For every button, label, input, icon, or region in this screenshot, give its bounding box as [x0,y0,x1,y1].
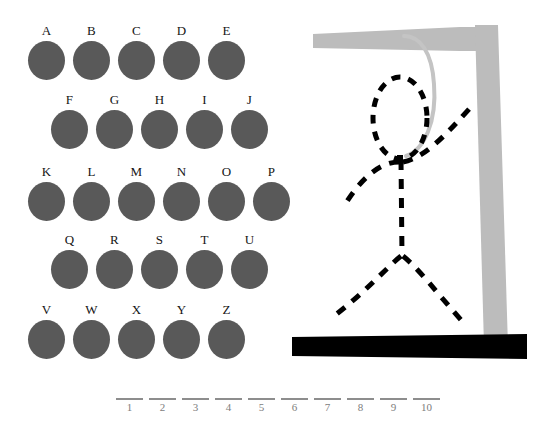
letter-key-disc[interactable] [73,320,110,359]
letter-key-h[interactable]: H [137,93,182,149]
letter-key-disc[interactable] [231,250,268,289]
letter-key-i[interactable]: I [182,93,227,149]
answer-slot-number: 3 [193,401,199,414]
letter-key-j[interactable]: J [227,93,272,149]
letter-key-disc[interactable] [28,320,65,359]
letter-key-r[interactable]: R [92,233,137,289]
letter-key-label: Y [177,303,187,318]
letter-key-disc[interactable] [186,110,223,149]
answer-slot-10: 10 [410,398,443,414]
letter-key-label: X [132,303,142,318]
letter-key-disc[interactable] [163,182,200,221]
letter-key-k[interactable]: K [24,165,69,221]
letter-key-m[interactable]: M [114,165,159,221]
letter-key-label: T [200,233,208,248]
letter-key-b[interactable]: B [69,24,114,80]
letter-key-disc[interactable] [118,182,155,221]
letter-key-w[interactable]: W [69,303,114,359]
answer-slot-number: 8 [358,401,364,414]
letter-key-disc[interactable] [51,110,88,149]
letter-key-label: U [245,233,255,248]
letter-key-u[interactable]: U [227,233,272,289]
gallows-scene [282,10,542,370]
letter-key-disc[interactable] [186,250,223,289]
answer-slot-line [347,398,374,400]
letter-key-q[interactable]: Q [47,233,92,289]
answer-slot-6: 6 [278,398,311,414]
letter-row-1: ABCDE [24,24,249,80]
letter-key-label: G [110,93,120,108]
answer-slot-line [413,398,440,400]
answer-slot-line [149,398,176,400]
letter-key-label: Q [65,233,75,248]
letter-key-e[interactable]: E [204,24,249,80]
letter-key-label: K [42,165,52,180]
letter-key-f[interactable]: F [47,93,92,149]
letter-key-label: M [131,165,143,180]
answer-slot-line [380,398,407,400]
letter-key-disc[interactable] [208,41,245,80]
letter-key-label: W [85,303,97,318]
figure-left-arm [343,162,399,208]
letter-key-c[interactable]: C [114,24,159,80]
answer-slot-number: 6 [292,401,298,414]
answer-slot-line [182,398,209,400]
letter-key-v[interactable]: V [24,303,69,359]
answer-slot-number: 10 [421,401,432,414]
answer-slot-5: 5 [245,398,278,414]
answer-slot-number: 5 [259,401,265,414]
letter-key-a[interactable]: A [24,24,69,80]
letter-key-disc[interactable] [28,41,65,80]
letter-key-l[interactable]: L [69,165,114,221]
letter-key-disc[interactable] [163,41,200,80]
rope-shape [404,36,434,156]
answer-slot-number: 9 [391,401,397,414]
letter-key-label: E [222,24,230,39]
letter-key-label: N [177,165,187,180]
letter-key-g[interactable]: G [92,93,137,149]
letter-key-disc[interactable] [96,110,133,149]
letter-key-label: I [202,93,207,108]
letter-key-disc[interactable] [73,182,110,221]
letter-key-z[interactable]: Z [204,303,249,359]
letter-key-label: L [87,165,95,180]
letter-key-disc[interactable] [141,110,178,149]
answer-slot-7: 7 [311,398,344,414]
letter-key-disc[interactable] [208,320,245,359]
gallows-beam-shape [313,27,494,51]
letter-key-label: J [247,93,252,108]
answer-slot-4: 4 [212,398,245,414]
letter-key-disc[interactable] [118,41,155,80]
answer-slot-line [248,398,275,400]
figure-right-leg [403,256,462,321]
letter-key-disc[interactable] [141,250,178,289]
answer-blanks: 12345678910 [113,398,443,414]
letter-key-y[interactable]: Y [159,303,204,359]
letter-key-o[interactable]: O [204,165,249,221]
letter-key-disc[interactable] [231,110,268,149]
answer-slot-9: 9 [377,398,410,414]
letter-key-disc[interactable] [73,41,110,80]
answer-slot-number: 2 [160,401,166,414]
letter-key-label: V [42,303,52,318]
answer-slot-number: 7 [325,401,331,414]
answer-slot-line [314,398,341,400]
letter-row-3: KLMNOP [24,165,294,221]
gallows-drawing [282,10,542,370]
letter-key-label: R [110,233,119,248]
letter-key-disc[interactable] [96,250,133,289]
letter-key-disc[interactable] [51,250,88,289]
letter-row-2: FGHIJ [47,93,272,149]
letter-key-label: B [87,24,96,39]
letter-key-t[interactable]: T [182,233,227,289]
answer-slot-2: 2 [146,398,179,414]
letter-key-x[interactable]: X [114,303,159,359]
letter-key-d[interactable]: D [159,24,204,80]
letter-key-label: H [155,93,165,108]
letter-key-n[interactable]: N [159,165,204,221]
letter-key-disc[interactable] [208,182,245,221]
letter-key-disc[interactable] [163,320,200,359]
letter-key-disc[interactable] [28,182,65,221]
letter-key-disc[interactable] [118,320,155,359]
letter-key-s[interactable]: S [137,233,182,289]
